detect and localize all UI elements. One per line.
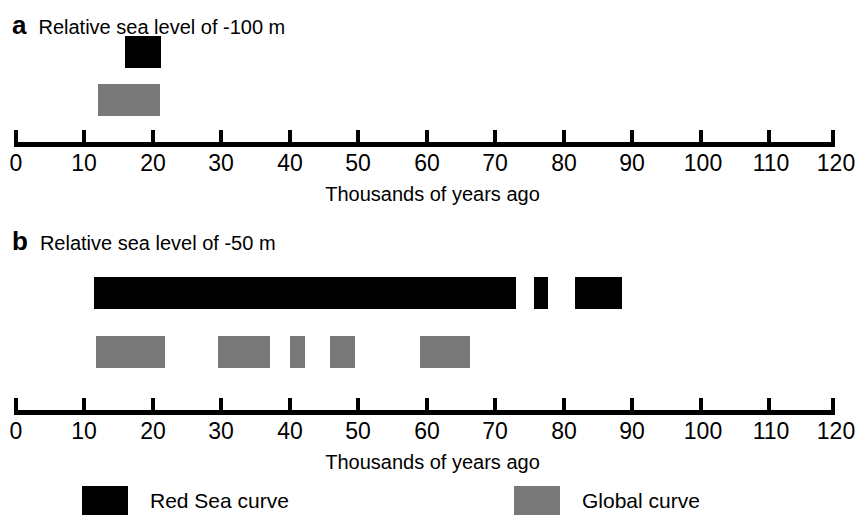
panel-b-tick-30 (219, 398, 223, 410)
panel-b-global-track (0, 336, 865, 370)
legend: Red Sea curve Global curve (0, 486, 865, 523)
panel-b-red-sea-bar-1 (94, 277, 516, 309)
panel-b-tick-label-0: 0 (10, 420, 23, 443)
panel-a-tick-label-90: 90 (619, 152, 645, 175)
panel-b-title: Relative sea level of -50 m (40, 233, 276, 253)
panel-b-letter: b (12, 228, 28, 254)
panel-a-tick-60 (425, 130, 429, 142)
panel-a-tick-80 (562, 130, 566, 142)
panel-b-tick-label-80: 80 (551, 420, 577, 443)
panel-a-global-bar-1 (98, 84, 160, 116)
panel-a-title: Relative sea level of -100 m (38, 17, 285, 37)
panel-a-tick-0 (14, 130, 18, 142)
panel-a-tick-100 (699, 130, 703, 142)
panel-b-tick-60 (425, 398, 429, 410)
panel-b-tick-label-70: 70 (482, 420, 508, 443)
panel-b-global-bar-4 (330, 336, 355, 368)
panel-b-tick-label-10: 10 (71, 420, 97, 443)
panel-a-tick-label-30: 30 (208, 152, 234, 175)
panel-a-tick-label-0: 0 (10, 152, 23, 175)
panel-a-tick-label-80: 80 (551, 152, 577, 175)
panel-b-tick-100 (699, 398, 703, 410)
panel-b-heading: b Relative sea level of -50 m (12, 228, 276, 254)
panel-b-global-bar-5 (420, 336, 470, 368)
panel-b-tick-label-100: 100 (684, 420, 722, 443)
panel-a-axis: 0 10 20 30 40 50 60 70 80 90 100 110 120… (0, 130, 865, 190)
panel-a-tick-label-50: 50 (345, 152, 371, 175)
panel-b-tick-label-110: 110 (753, 420, 790, 443)
panel-a-tick-110 (767, 130, 771, 142)
panel-b-tick-10 (82, 398, 86, 410)
panel-a-tick-label-60: 60 (414, 152, 440, 175)
panel-b-tick-40 (288, 398, 292, 410)
legend-item-red-sea-curve: Red Sea curve (82, 486, 289, 515)
panel-a-tick-30 (219, 130, 223, 142)
panel-b-global-bar-3 (290, 336, 305, 368)
panel-b-red-sea-bar-2 (534, 277, 548, 309)
panel-a-red-sea-bar-1 (125, 36, 161, 68)
panel-a-tick-10 (82, 130, 86, 142)
panel-b-tick-120 (831, 398, 835, 410)
panel-a-tick-40 (288, 130, 292, 142)
figure-root: a Relative sea level of -100 m 0 10 20 3… (0, 0, 865, 523)
panel-a-tick-20 (151, 130, 155, 142)
panel-b-red-sea-bar-3 (575, 277, 622, 309)
panel-a-red-sea-track (0, 36, 865, 70)
panel-b-tick-label-20: 20 (140, 420, 166, 443)
panel-b-tick-50 (356, 398, 360, 410)
panel-a-tick-70 (493, 130, 497, 142)
panel-a-tick-120 (831, 130, 835, 142)
panel-b-red-sea-track (0, 277, 865, 311)
panel-b-tick-label-90: 90 (619, 420, 645, 443)
panel-b-global-bar-2 (218, 336, 270, 368)
panel-a-global-track (0, 84, 865, 118)
panel-a-tick-50 (356, 130, 360, 142)
panel-a-tick-label-110: 110 (753, 152, 790, 175)
panel-b-tick-0 (14, 398, 18, 410)
panel-b-axis-title: Thousands of years ago (0, 452, 865, 472)
panel-b-tick-110 (767, 398, 771, 410)
panel-b-tick-label-120: 120 (817, 420, 855, 443)
legend-label-global-curve: Global curve (582, 490, 700, 511)
panel-a-tick-label-40: 40 (277, 152, 303, 175)
panel-b-global-bar-1 (96, 336, 165, 368)
panel-b-tick-90 (630, 398, 634, 410)
panel-a-tick-label-100: 100 (684, 152, 722, 175)
panel-a-tick-label-120: 120 (817, 152, 855, 175)
panel-b-tick-20 (151, 398, 155, 410)
panel-a-axis-title: Thousands of years ago (0, 184, 865, 204)
panel-a-tick-90 (630, 130, 634, 142)
legend-label-red-sea-curve: Red Sea curve (150, 490, 289, 511)
panel-a-tick-label-70: 70 (482, 152, 508, 175)
legend-item-global-curve: Global curve (514, 486, 700, 515)
panel-b-tick-70 (493, 398, 497, 410)
panel-a-tick-label-20: 20 (140, 152, 166, 175)
panel-b-tick-label-40: 40 (277, 420, 303, 443)
panel-b-tick-label-30: 30 (208, 420, 234, 443)
panel-b-tick-label-50: 50 (345, 420, 371, 443)
legend-swatch-black-icon (82, 486, 128, 515)
panel-a-letter: a (12, 12, 26, 38)
panel-b-axis-line (14, 410, 835, 415)
panel-b-tick-label-60: 60 (414, 420, 440, 443)
panel-a-heading: a Relative sea level of -100 m (12, 12, 285, 38)
panel-a-axis-line (14, 142, 835, 147)
panel-b-axis: 0 10 20 30 40 50 60 70 80 90 100 110 120… (0, 398, 865, 458)
panel-b-tick-80 (562, 398, 566, 410)
panel-a-tick-label-10: 10 (71, 152, 97, 175)
legend-swatch-gray-icon (514, 486, 560, 515)
